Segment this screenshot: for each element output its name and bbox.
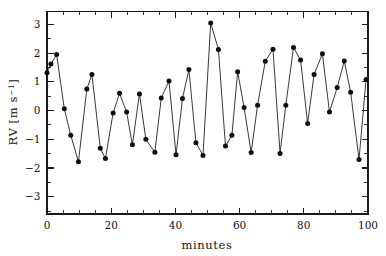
data-point xyxy=(180,96,185,101)
data-point xyxy=(98,146,103,151)
data-point xyxy=(223,143,228,148)
data-point xyxy=(255,103,260,108)
x-tick-label-100: 100 xyxy=(358,219,378,231)
data-point xyxy=(291,45,296,50)
data-point xyxy=(137,91,142,96)
data-point xyxy=(193,140,198,145)
y-tick-label-1: 1 xyxy=(34,75,41,87)
data-point xyxy=(208,20,213,25)
data-point xyxy=(103,156,108,161)
data-point xyxy=(364,77,369,82)
data-point xyxy=(48,62,53,67)
data-point xyxy=(242,105,247,110)
data-point xyxy=(201,153,206,158)
data-point xyxy=(270,47,275,52)
data-point xyxy=(143,137,148,142)
rv-time-series-figure: 020406080100 −3−2−10123 minutes RV [m s−… xyxy=(0,0,386,256)
data-point xyxy=(298,58,303,63)
data-point xyxy=(216,47,221,52)
data-point xyxy=(229,133,234,138)
data-point xyxy=(263,59,268,64)
x-tick-label-0: 0 xyxy=(44,219,51,231)
data-point xyxy=(130,142,135,147)
y-tick-label-2: 2 xyxy=(34,47,41,59)
data-point xyxy=(249,150,254,155)
data-point xyxy=(68,133,73,138)
data-point xyxy=(89,72,94,77)
data-point xyxy=(235,69,240,74)
data-point xyxy=(166,79,171,84)
y-tick-label-3: 3 xyxy=(34,18,41,30)
data-point xyxy=(312,72,317,77)
data-point xyxy=(174,152,179,157)
data-point xyxy=(348,90,353,95)
data-point xyxy=(342,58,347,63)
data-point xyxy=(62,106,67,111)
data-point xyxy=(152,150,157,155)
x-axis-title: minutes xyxy=(182,238,233,252)
data-point xyxy=(305,121,310,126)
data-point xyxy=(327,110,332,115)
data-point xyxy=(357,157,362,162)
y-tick-label-0: 0 xyxy=(34,104,41,116)
x-tick-label-80: 80 xyxy=(297,219,310,231)
data-point xyxy=(76,159,81,164)
x-tick-label-60: 60 xyxy=(233,219,246,231)
x-tick-label-40: 40 xyxy=(169,219,182,231)
data-point xyxy=(320,51,325,56)
figure-background xyxy=(0,0,386,256)
data-point xyxy=(159,95,164,100)
data-point xyxy=(186,67,191,72)
data-point xyxy=(84,87,89,92)
data-point xyxy=(124,110,129,115)
y-tick-label-−3: −3 xyxy=(25,190,40,202)
data-point xyxy=(278,151,283,156)
y-tick-label-−2: −2 xyxy=(25,162,40,174)
plot-canvas: 020406080100 −3−2−10123 minutes RV [m s−… xyxy=(0,0,386,256)
data-point xyxy=(283,103,288,108)
x-tick-label-20: 20 xyxy=(105,219,118,231)
data-point xyxy=(54,52,59,57)
data-point xyxy=(111,110,116,115)
y-tick-label-−1: −1 xyxy=(25,133,40,145)
data-point xyxy=(335,85,340,90)
data-point xyxy=(45,70,50,75)
data-point xyxy=(117,91,122,96)
